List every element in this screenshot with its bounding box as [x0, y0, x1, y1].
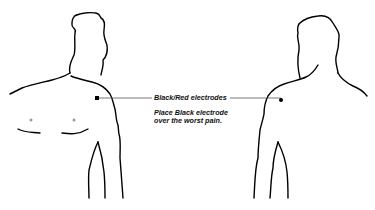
back-torso-figure	[254, 16, 367, 198]
electrode-back-dot	[279, 98, 283, 102]
instruction-line-2: over the worst pain.	[154, 117, 228, 125]
nipple-left-dot	[30, 119, 33, 122]
electrode-label: Black/Red electrodes	[154, 94, 227, 102]
front-torso-figure	[10, 13, 123, 198]
electrode-front-dot	[95, 96, 99, 100]
diagram-canvas	[0, 0, 375, 210]
nipple-right-dot	[73, 119, 76, 122]
placement-instruction: Place Black electrode over the worst pai…	[154, 109, 228, 125]
